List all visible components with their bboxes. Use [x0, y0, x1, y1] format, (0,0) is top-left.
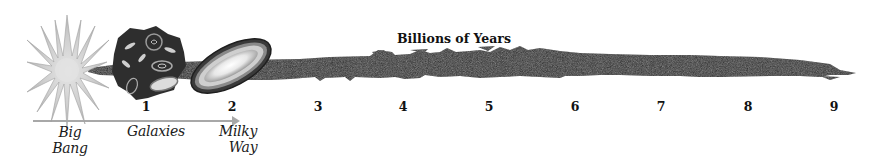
stage-label-line: Big [48, 124, 92, 140]
tick-label-3: 3 [308, 99, 328, 114]
stage-label-line: Way [214, 139, 262, 155]
tick-label-2: 2 [222, 99, 242, 114]
stage-label-line: Galaxies [124, 123, 188, 139]
tick-label-8: 8 [738, 99, 758, 114]
stage-label-line: Bang [48, 140, 92, 156]
tick-label-6: 6 [565, 99, 585, 114]
galaxy-cluster-icon [112, 26, 186, 100]
tick-label-4: 4 [393, 99, 413, 114]
stage-label-line: Milky [214, 123, 262, 139]
diagram-title: Billions of Years [397, 31, 501, 46]
tick-label-1: 1 [136, 99, 156, 114]
tick-label-5: 5 [479, 99, 499, 114]
stage-label-milky-way: Milky Way [214, 123, 262, 155]
timeline-graphics [0, 0, 882, 167]
tick-label-9: 9 [824, 99, 844, 114]
stage-label-big-bang: Big Bang [48, 124, 92, 156]
tick-label-7: 7 [651, 99, 671, 114]
cosmic-timeline-diagram: Billions of Years 1 2 3 4 5 6 7 8 9 Big … [0, 0, 882, 167]
stage-label-galaxies: Galaxies [124, 123, 188, 139]
